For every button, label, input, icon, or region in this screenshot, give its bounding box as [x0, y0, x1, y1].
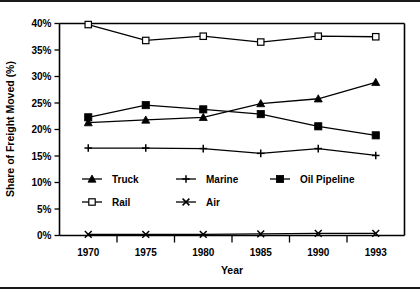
legend-item-marine: Marine	[176, 174, 239, 185]
legend-label: Truck	[112, 174, 139, 185]
legend-label: Rail	[112, 197, 131, 208]
y-tick-label: 10%	[31, 177, 51, 188]
data-point-marker-filled-square	[200, 106, 207, 113]
x-tick-label: 1975	[135, 247, 158, 258]
x-axis-tick-labels: 197019751980198519901993	[77, 247, 387, 258]
y-tick-label: 25%	[31, 98, 51, 109]
data-point-marker-plus	[84, 144, 92, 152]
data-point-marker-filled-square	[315, 123, 322, 130]
data-point-marker-open-square	[373, 34, 379, 40]
data-point-marker-open-square	[89, 199, 95, 205]
legend-item-air: Air	[176, 197, 220, 208]
y-tick-label: 0%	[37, 230, 52, 241]
y-tick-label: 40%	[31, 18, 51, 29]
x-axis-title: Year	[221, 264, 243, 276]
series-line	[88, 25, 376, 42]
series-marine	[84, 144, 379, 159]
series-truck	[84, 78, 380, 125]
data-point-marker-plus	[199, 145, 207, 153]
x-tick-label: 1980	[192, 247, 215, 258]
data-point-marker-plus	[182, 175, 190, 183]
x-tick-label: 1993	[365, 247, 388, 258]
x-tick-label: 1990	[307, 247, 330, 258]
data-point-marker-plus	[372, 152, 380, 160]
data-point-marker-filled-square	[142, 102, 149, 109]
y-axis-tick-labels: 0%5%10%15%20%25%30%35%40%	[31, 18, 51, 241]
y-tick-label: 5%	[37, 204, 52, 215]
data-point-marker-open-square	[315, 33, 321, 39]
x-tick-label: 1985	[250, 247, 273, 258]
data-point-marker-open-square	[85, 21, 91, 27]
legend-label: Marine	[206, 174, 239, 185]
x-tick-label: 1970	[77, 247, 100, 258]
data-point-marker-filled-square	[85, 114, 92, 121]
y-tick-label: 20%	[31, 124, 51, 135]
y-axis-title: Share of Freight Moved (%)	[4, 61, 16, 197]
chart-legend: TruckMarineOil PipelineRailAir	[82, 174, 355, 208]
legend-item-oil-pipeline: Oil Pipeline	[270, 174, 355, 185]
data-point-marker-filled-square	[276, 175, 283, 182]
y-tick-label: 30%	[31, 71, 51, 82]
legend-item-truck: Truck	[82, 174, 139, 185]
data-point-marker-filled-triangle	[372, 78, 380, 85]
data-point-marker-open-square	[258, 39, 264, 45]
legend-label: Air	[206, 197, 220, 208]
series-line	[88, 233, 376, 234]
data-point-marker-plus	[142, 144, 150, 152]
data-point-marker-filled-square	[257, 111, 264, 118]
legend-label: Oil Pipeline	[300, 174, 355, 185]
y-tick-label: 15%	[31, 151, 51, 162]
legend-item-rail: Rail	[82, 197, 131, 208]
series-line	[88, 148, 376, 155]
data-point-marker-plus	[314, 145, 322, 153]
data-point-marker-open-square	[143, 37, 149, 43]
series-rail	[85, 21, 379, 45]
series-line	[88, 82, 376, 122]
x-axis-tick-marks	[117, 236, 347, 243]
freight-share-line-chart: 0%5%10%15%20%25%30%35%40% 19701975198019…	[0, 2, 420, 289]
data-point-marker-plus	[257, 150, 265, 158]
data-point-marker-filled-square	[372, 132, 379, 139]
data-point-marker-open-square	[200, 33, 206, 39]
figure-container: 0%5%10%15%20%25%30%35%40% 19701975198019…	[0, 0, 420, 289]
y-tick-label: 35%	[31, 45, 51, 56]
